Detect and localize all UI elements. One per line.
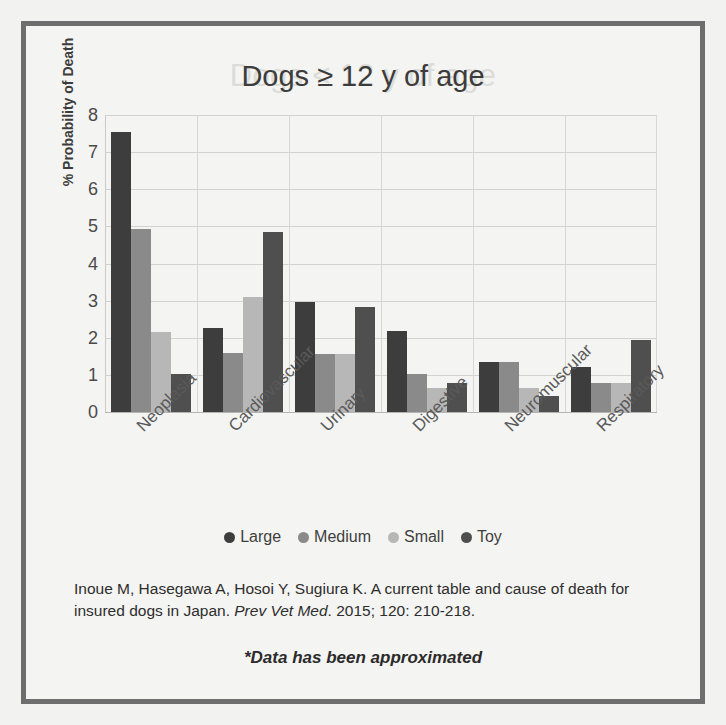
footnote: *Data has been approximated — [0, 648, 726, 668]
legend-label: Medium — [314, 528, 371, 546]
legend-swatch-medium-icon — [298, 532, 309, 543]
legend-swatch-large-icon — [224, 532, 235, 543]
bar-neuromuscular-medium[interactable] — [499, 362, 519, 412]
y-axis-label: % Probability of Death — [60, 0, 76, 232]
y-tick-label-1: 1 — [58, 364, 98, 385]
legend-label: Toy — [477, 528, 502, 546]
bar-group-digestive — [381, 115, 473, 412]
bar-digestive-large[interactable] — [387, 331, 407, 412]
legend-item-small[interactable]: Small — [388, 528, 444, 546]
bar-group-neuromuscular — [473, 115, 565, 412]
citation: Inoue M, Hasegawa A, Hosoi Y, Sugiura K.… — [74, 578, 664, 622]
bar-neuromuscular-large[interactable] — [479, 362, 499, 412]
y-tick-label-0: 0 — [58, 402, 98, 423]
legend-label: Small — [404, 528, 444, 546]
citation-part2: . 2015; 120: 210-218. — [328, 602, 475, 619]
bar-neoplasia-medium[interactable] — [131, 229, 151, 412]
legend-label: Large — [240, 528, 281, 546]
bar-group-neoplasia — [105, 115, 197, 412]
bar-urinary-medium[interactable] — [315, 354, 335, 412]
gridline-0 — [105, 412, 657, 413]
bar-cardiovascular-medium[interactable] — [223, 353, 243, 412]
chart-title: Dogs ≥ 12 y of age — [0, 60, 726, 93]
legend-swatch-small-icon — [388, 532, 399, 543]
bar-neoplasia-large[interactable] — [111, 132, 131, 412]
legend-item-medium[interactable]: Medium — [298, 528, 371, 546]
bar-cardiovascular-large[interactable] — [203, 328, 223, 412]
legend-item-large[interactable]: Large — [224, 528, 281, 546]
chart-legend: LargeMediumSmallToy — [0, 528, 726, 546]
legend-swatch-toy-icon — [461, 532, 472, 543]
citation-journal: Prev Vet Med — [234, 602, 327, 619]
slide: Dogs < 12 y of age Dogs ≥ 12 y of age 01… — [0, 0, 726, 725]
legend-item-toy[interactable]: Toy — [461, 528, 502, 546]
y-tick-label-4: 4 — [58, 253, 98, 274]
bar-group-cardiovascular — [197, 115, 289, 412]
y-tick-label-2: 2 — [58, 327, 98, 348]
y-tick-label-3: 3 — [58, 290, 98, 311]
